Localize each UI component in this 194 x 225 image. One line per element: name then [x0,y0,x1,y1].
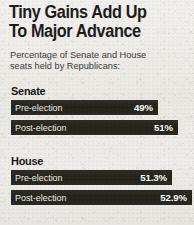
bar-value: 52.9% [160,193,187,203]
headline-line-2: To Major Advance [9,22,176,41]
chart-group-house: House Pre-election 51.3% Post-election 5… [11,155,194,210]
chart-subtitle: Percentage of Senate and House seats hel… [10,49,187,71]
bar-row: Pre-election 51.3% [11,170,194,190]
bar-senate-pre-election: Pre-election 49% [11,100,158,115]
headline-line-1: Tiny Gains Add Up [9,3,176,22]
bar-senate-post-election: Post-election 51% [11,120,178,135]
subtitle-line-2: seats held by Republicans: [10,60,187,71]
bar-label: Post-election [15,193,66,202]
bar-row: Post-election 52.9% [11,190,194,210]
bar-house-post-election: Post-election 52.9% [11,190,192,205]
bar-row: Pre-election 49% [11,100,194,120]
group-heading-senate: Senate [11,85,185,97]
bar-label: Post-election [15,123,66,132]
bar-house-pre-election: Pre-election 51.3% [11,170,172,185]
bar-row: Post-election 51% [11,120,194,140]
bar-value: 49% [134,103,153,113]
group-heading-house: House [11,155,185,167]
bar-label: Pre-election [15,173,63,182]
chart-group-senate: Senate Pre-election 49% Post-election 51… [11,85,194,140]
subtitle-line-1: Percentage of Senate and House [10,49,187,60]
bar-value: 51.3% [140,173,167,183]
infographic-figure: Tiny Gains Add Up To Major Advance Perce… [0,0,194,225]
page-title: Tiny Gains Add Up To Major Advance [9,3,176,40]
bar-label: Pre-election [15,103,63,112]
bar-value: 51% [154,123,173,133]
